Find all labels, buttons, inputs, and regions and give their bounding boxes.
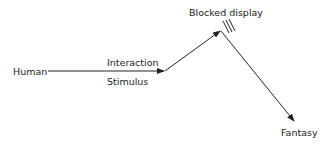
node-fantasy: Fantasy: [281, 128, 318, 138]
edge-interaction-to-blocked: [165, 31, 220, 71]
diagram-edges: [0, 0, 326, 146]
blocked-hash-icon: [223, 19, 235, 33]
node-blocked-display: Blocked display: [189, 8, 263, 18]
diagram-canvas: Human Interaction Stimulus Blocked displ…: [0, 0, 326, 146]
edge-label-interaction: Interaction: [107, 58, 159, 68]
edge-label-stimulus: Stimulus: [107, 77, 148, 87]
edge-blocked-to-fantasy: [221, 31, 294, 121]
node-human: Human: [13, 67, 47, 77]
